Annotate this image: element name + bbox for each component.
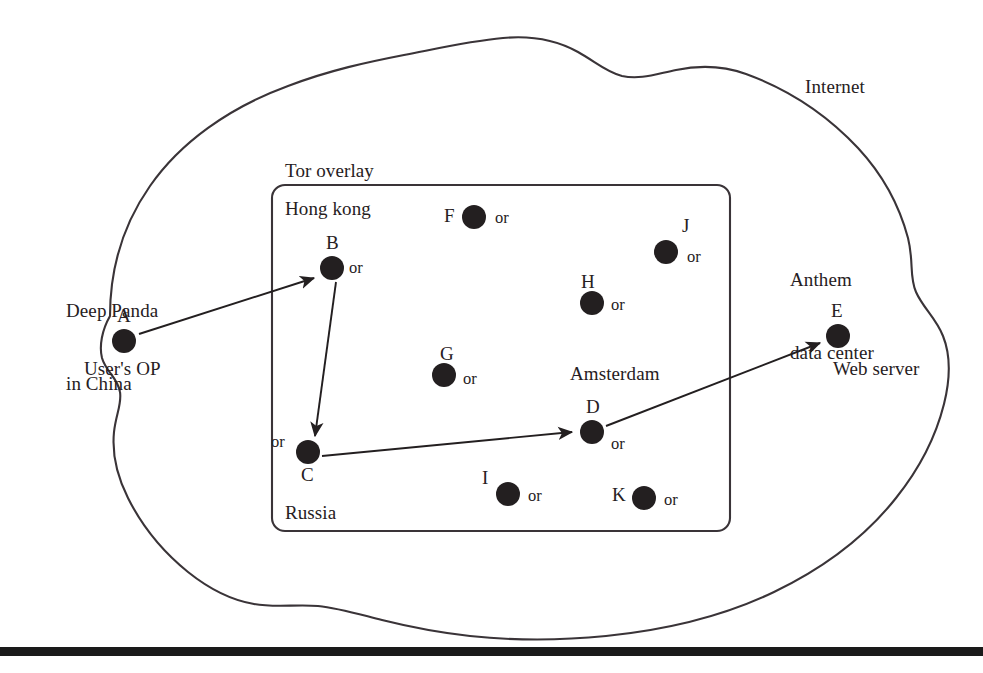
or-tag-I: or xyxy=(528,486,542,505)
tor-overlay-label: Tor overlay xyxy=(285,160,374,182)
node-label-K: K xyxy=(612,484,626,506)
tor-overlay-box xyxy=(272,185,730,531)
node-F[interactable] xyxy=(462,205,486,229)
node-label-F: F xyxy=(444,205,455,227)
web-server-label: Web server xyxy=(833,358,920,380)
or-tag-B: or xyxy=(349,258,363,277)
or-tag-J: or xyxy=(687,247,701,266)
region-label-hong-kong: Hong kong xyxy=(285,198,371,220)
or-tag-C: or xyxy=(271,432,285,451)
node-label-I: I xyxy=(482,467,488,489)
target-annotation-line1: Anthem xyxy=(790,268,874,292)
node-label-H: H xyxy=(581,271,595,293)
node-I[interactable] xyxy=(496,482,520,506)
node-label-C: C xyxy=(301,464,314,486)
node-label-J: J xyxy=(682,215,690,237)
internet-label: Internet xyxy=(805,76,865,98)
node-label-B: B xyxy=(326,232,339,254)
or-tag-D: or xyxy=(611,434,625,453)
or-tag-K: or xyxy=(664,490,678,509)
node-label-D: D xyxy=(586,396,600,418)
or-tag-G: or xyxy=(463,369,477,388)
node-C[interactable] xyxy=(296,440,320,464)
user-op-label: User's OP xyxy=(84,358,161,380)
node-D[interactable] xyxy=(580,420,604,444)
figure-root: Internet Tor overlay Hong kong Russia Am… xyxy=(0,0,983,673)
region-label-russia: Russia xyxy=(285,502,336,524)
node-J[interactable] xyxy=(654,240,678,264)
or-tag-F: or xyxy=(495,208,509,227)
node-label-A: A xyxy=(117,305,131,327)
node-K[interactable] xyxy=(632,486,656,510)
node-B[interactable] xyxy=(320,256,344,280)
bottom-rule xyxy=(0,647,983,656)
node-H[interactable] xyxy=(580,291,604,315)
attacker-annotation: Deep Panda in China xyxy=(66,250,158,445)
attacker-annotation-line1: Deep Panda xyxy=(66,299,158,323)
node-label-E: E xyxy=(831,300,843,322)
or-tag-H: or xyxy=(611,295,625,314)
node-G[interactable] xyxy=(432,363,456,387)
node-label-G: G xyxy=(440,343,454,365)
region-label-amsterdam: Amsterdam xyxy=(570,363,660,385)
